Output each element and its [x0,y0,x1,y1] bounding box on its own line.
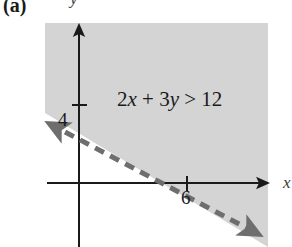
panel-label: (a) [3,0,26,15]
inequality-coef-y: 3 [159,87,170,111]
tick-label-x-6: 6 [181,188,191,207]
y-axis-label: y [70,0,78,7]
inequality-coef-x: 2 [117,87,128,111]
inequality-annotation: 2x + 3y > 12 [117,89,222,110]
inequality-plus: + [137,87,159,111]
inequality-constant: 12 [201,87,222,111]
inequality-relation: > [179,87,201,111]
graph-canvas [0,0,292,247]
inequality-graph-figure: (a) y x 4 6 2x + 3y > 12 [0,0,292,247]
inequality-var-x: x [128,87,137,111]
inequality-var-y: y [170,87,179,111]
x-axis-label: x [283,174,291,191]
tick-label-y-4: 4 [58,110,68,129]
